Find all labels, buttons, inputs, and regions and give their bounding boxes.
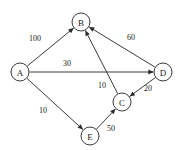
- graph-edge-d-b: [89, 27, 155, 67]
- node-label-b: B: [78, 18, 84, 28]
- edge-weight-a-b: 100: [29, 34, 41, 43]
- graph-node-c[interactable]: C: [113, 93, 131, 111]
- edge-weight-d-b: 60: [127, 33, 135, 42]
- edge-weights-layer: 100301060201050: [29, 33, 152, 133]
- graph-node-a[interactable]: A: [11, 63, 29, 81]
- node-label-c: C: [119, 98, 125, 108]
- edge-weight-d-c: 20: [144, 84, 152, 93]
- graph-node-d[interactable]: D: [154, 63, 172, 81]
- edge-weight-a-d: 30: [63, 59, 71, 68]
- edge-weight-e-c: 50: [107, 124, 115, 133]
- arrowhead-a-d: [148, 70, 153, 75]
- edge-weight-c-b: 10: [98, 81, 106, 90]
- graph-node-b[interactable]: B: [72, 13, 90, 31]
- node-label-e: E: [87, 132, 93, 142]
- node-label-a: A: [17, 68, 24, 78]
- graph-edge-a-e: [27, 78, 83, 129]
- graph-canvas: ABCDE 100301060201050: [0, 0, 180, 150]
- edge-weight-a-e: 10: [39, 106, 47, 115]
- graph-node-e[interactable]: E: [81, 127, 99, 145]
- graph-figure: ABCDE 100301060201050: [0, 0, 180, 150]
- node-label-d: D: [160, 68, 167, 78]
- arrowhead-d-c: [130, 91, 136, 96]
